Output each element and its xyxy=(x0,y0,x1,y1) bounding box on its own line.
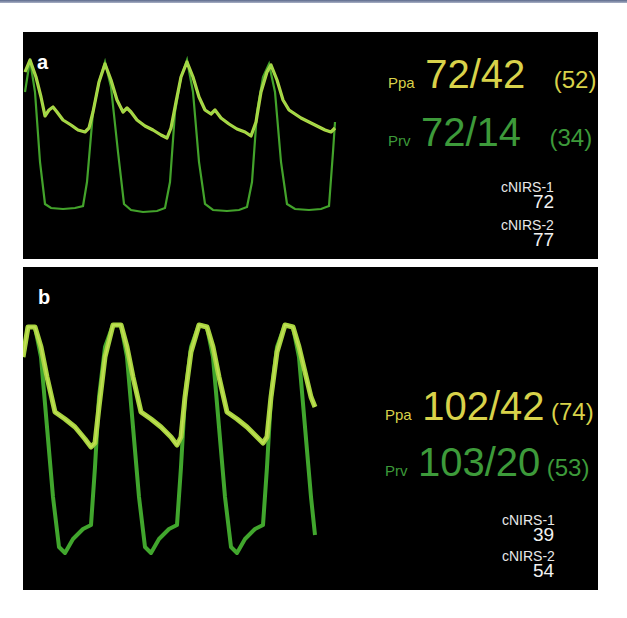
cnirs1-value-a: 72 xyxy=(533,192,554,211)
ppa-label: Ppa xyxy=(388,74,415,91)
prv-label: Prv xyxy=(385,462,408,479)
prv-mean: (34) xyxy=(550,124,593,151)
panel-label-b: b xyxy=(38,287,50,307)
cnirs2-value-a: 77 xyxy=(533,230,554,249)
monitor-panel-b: b Ppa 102/42 (74) Prv 103/20 (53) cNIRS-… xyxy=(23,267,598,590)
prv-label: Prv xyxy=(388,132,411,149)
prv-mean: (53) xyxy=(547,454,590,481)
ppa-mean: (74) xyxy=(551,398,594,425)
prv-readout-a: Prv 72/14 (34) xyxy=(388,110,592,155)
top-border xyxy=(0,0,627,3)
ppa-value: 72/42 xyxy=(425,52,525,96)
ppa-mean: (52) xyxy=(554,66,597,93)
prv-value: 103/20 xyxy=(418,440,540,484)
cnirs1-value-b: 39 xyxy=(533,525,554,544)
prv-readout-b: Prv 103/20 (53) xyxy=(385,440,589,485)
ppa-label: Ppa xyxy=(385,406,412,423)
cnirs2-value-b: 54 xyxy=(533,561,554,580)
monitor-panel-a: a Ppa 72/42 (52) Prv 72/14 (34) cNIRS-1 … xyxy=(23,32,598,259)
ppa-readout-b: Ppa 102/42 (74) xyxy=(385,384,594,429)
ppa-value: 102/42 xyxy=(422,384,544,428)
prv-value: 72/14 xyxy=(421,110,521,154)
panel-label-a: a xyxy=(37,52,48,72)
ppa-readout-a: Ppa 72/42 (52) xyxy=(388,52,596,97)
